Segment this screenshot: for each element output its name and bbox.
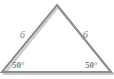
left-side-length-label: 6 <box>20 30 25 40</box>
geometry-figure: 6 6 50° 50° <box>0 0 114 79</box>
right-side-length-label: 6 <box>83 30 88 40</box>
left-base-angle-label: 50° <box>12 61 25 70</box>
right-base-angle-label: 50° <box>85 61 98 70</box>
